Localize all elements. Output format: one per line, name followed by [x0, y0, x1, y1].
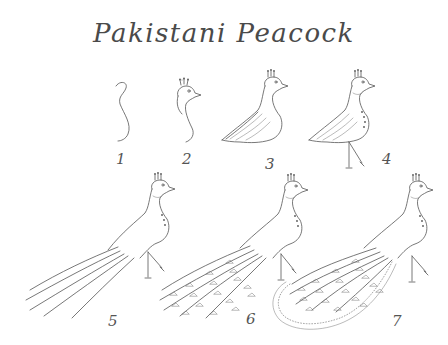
step-label-2: 2 — [182, 150, 192, 168]
step-4-drawing — [309, 69, 375, 168]
step-5-drawing — [26, 172, 175, 318]
step-3-drawing — [222, 69, 288, 142]
step-label-4: 4 — [382, 150, 392, 168]
step-2-drawing — [177, 78, 201, 142]
step-6-drawing — [160, 173, 308, 318]
step-1-drawing — [116, 82, 129, 141]
eye-spots — [298, 259, 383, 310]
step-label-5: 5 — [108, 312, 118, 330]
step-label-1: 1 — [116, 150, 126, 168]
peacock-steps-illustration — [0, 0, 448, 345]
step-label-3: 3 — [265, 155, 275, 173]
step-label-6: 6 — [246, 310, 256, 328]
step-label-7: 7 — [392, 312, 402, 330]
step-7-drawing — [273, 173, 433, 329]
